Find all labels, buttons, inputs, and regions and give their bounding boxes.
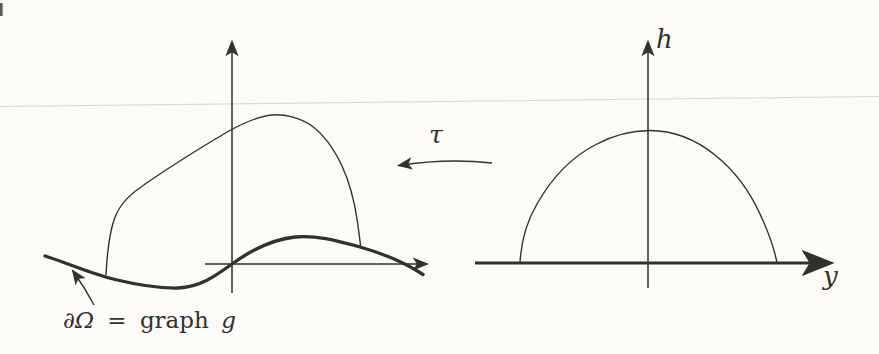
tau-arrow <box>399 161 492 166</box>
g-function-symbol: g <box>221 307 236 333</box>
tau-map-label: τ <box>429 122 443 147</box>
domain-omega-boundary-curve <box>106 115 361 275</box>
scanned-figure-page: ∂Ω = graph g τ h y <box>0 0 879 354</box>
graph-g-thick-curve <box>45 237 423 288</box>
boundary-equation-label: ∂Ω = graph g <box>63 309 236 332</box>
partial-omega-symbol: ∂Ω <box>63 307 94 333</box>
y-axis-label: y <box>823 263 838 289</box>
scan-line <box>0 97 879 107</box>
graph-word: graph <box>140 307 209 333</box>
equals-sign: = <box>107 307 126 333</box>
h-axis-label: h <box>656 26 673 52</box>
scan-edge-artifact <box>0 3 3 16</box>
boundary-label-arrow <box>73 271 94 305</box>
figure-drawing <box>0 0 879 354</box>
